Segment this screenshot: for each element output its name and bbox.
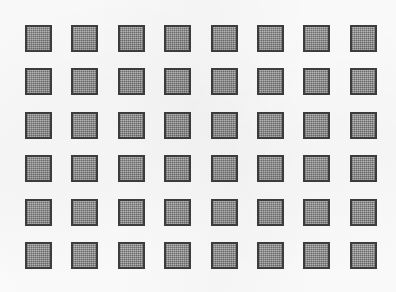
grid-square — [71, 68, 98, 95]
grid-square — [118, 112, 145, 139]
grid-square — [211, 242, 238, 269]
grid-square — [303, 68, 330, 95]
grid-square — [303, 199, 330, 226]
grid-square — [257, 25, 284, 52]
grid-square — [25, 242, 52, 269]
grid-square — [118, 68, 145, 95]
grid-square — [25, 199, 52, 226]
grid-square — [71, 242, 98, 269]
grid-square — [164, 112, 191, 139]
grid-square — [211, 25, 238, 52]
grid-square — [164, 25, 191, 52]
grid-square — [164, 155, 191, 182]
grid-square — [211, 112, 238, 139]
grid-square — [164, 242, 191, 269]
grid-square — [257, 242, 284, 269]
grid-square — [350, 199, 377, 226]
grid-square — [350, 155, 377, 182]
grid-square — [118, 25, 145, 52]
grid-square — [303, 242, 330, 269]
grid-square — [211, 199, 238, 226]
grid-square — [350, 68, 377, 95]
grid-square — [71, 25, 98, 52]
grid-square — [71, 112, 98, 139]
grid-square — [350, 25, 377, 52]
grid-square — [25, 25, 52, 52]
grid-square — [164, 199, 191, 226]
grid-square — [350, 112, 377, 139]
grid-square — [118, 155, 145, 182]
grid-square — [303, 112, 330, 139]
grid-square — [350, 242, 377, 269]
grid-square — [25, 68, 52, 95]
grid-square — [211, 155, 238, 182]
grid-square — [257, 199, 284, 226]
grid-square — [257, 155, 284, 182]
grid-square — [118, 199, 145, 226]
grid-square — [25, 155, 52, 182]
grid-square — [71, 199, 98, 226]
grid-square — [303, 25, 330, 52]
grid-square — [211, 68, 238, 95]
grid-square — [25, 112, 52, 139]
grid-square — [164, 68, 191, 95]
grid-square — [257, 112, 284, 139]
grid-square — [257, 68, 284, 95]
figure-canvas — [0, 0, 396, 292]
grid-square — [71, 155, 98, 182]
grid-square — [118, 242, 145, 269]
square-grid — [25, 25, 377, 269]
grid-square — [303, 155, 330, 182]
